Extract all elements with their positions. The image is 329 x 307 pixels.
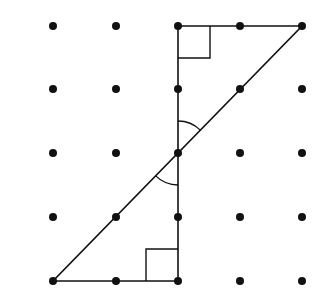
grid-dot xyxy=(49,85,57,93)
grid-dot xyxy=(298,149,306,157)
grid-dot xyxy=(298,22,306,30)
grid-dot xyxy=(174,149,182,157)
grid-dot xyxy=(112,213,120,221)
angle-arc-upper xyxy=(178,121,200,130)
grid-dot xyxy=(49,213,57,221)
grid-dot xyxy=(236,22,244,30)
grid-dot xyxy=(174,277,182,285)
grid-dot xyxy=(49,22,57,30)
grid-dot xyxy=(174,22,182,30)
grid-dot xyxy=(298,213,306,221)
grid-dot xyxy=(174,213,182,221)
grid-dot xyxy=(49,277,57,285)
grid-dot xyxy=(112,149,120,157)
grid-dot xyxy=(298,277,306,285)
angle-arc-lower xyxy=(156,176,178,185)
grid-dot xyxy=(174,85,182,93)
grid-dot xyxy=(236,149,244,157)
right-angle-mark-lower xyxy=(146,249,178,281)
grid-dot xyxy=(49,149,57,157)
grid-dot xyxy=(112,22,120,30)
grid-dot xyxy=(298,85,306,93)
right-angle-mark-upper xyxy=(178,26,210,58)
grid-dot xyxy=(112,85,120,93)
grid-dot xyxy=(236,213,244,221)
geometry-diagram xyxy=(0,0,329,307)
grid-dot xyxy=(236,277,244,285)
grid-dot xyxy=(112,277,120,285)
grid-dot xyxy=(236,85,244,93)
